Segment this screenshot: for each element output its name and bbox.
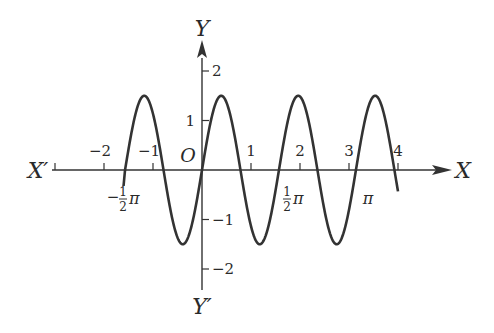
x-tick-label: −1 bbox=[138, 142, 160, 160]
pi-symbol: π bbox=[292, 189, 304, 208]
fraction-denominator: 2 bbox=[283, 200, 291, 214]
x-tick-label: 1 bbox=[246, 142, 256, 160]
fraction-numerator: 1 bbox=[119, 185, 127, 199]
axis-labels: −2−1123421−1−2XX′YY′O−12π12ππ bbox=[26, 16, 473, 319]
pi-annotation: 12π bbox=[283, 185, 304, 214]
axes bbox=[52, 40, 452, 290]
fraction-numerator: 1 bbox=[283, 185, 291, 199]
x-axis-neg-label: X′ bbox=[26, 158, 49, 183]
minus-sign: − bbox=[107, 188, 120, 206]
pi-symbol: π bbox=[362, 189, 374, 208]
pi-symbol: π bbox=[128, 189, 140, 208]
y-tick-label: −2 bbox=[212, 260, 234, 278]
y-tick-label: 1 bbox=[185, 112, 195, 130]
fraction-denominator: 2 bbox=[119, 200, 127, 214]
x-tick-label: 3 bbox=[344, 142, 354, 160]
origin-label: O bbox=[180, 144, 196, 166]
pi-annotation: π bbox=[362, 189, 374, 208]
x-tick-label: −2 bbox=[89, 142, 111, 160]
x-tick-label: 4 bbox=[393, 142, 403, 160]
pi-annotation: −12π bbox=[107, 185, 140, 214]
y-axis-neg-label: Y′ bbox=[192, 294, 212, 319]
y-axis-label: Y bbox=[195, 16, 212, 41]
chart-canvas: −2−1123421−1−2XX′YY′O−12π12ππ bbox=[0, 0, 494, 333]
y-tick-label: 2 bbox=[212, 62, 222, 80]
x-tick-label: 2 bbox=[295, 142, 305, 160]
y-tick-label: −1 bbox=[212, 211, 234, 229]
curve-start-tail bbox=[124, 170, 126, 186]
x-axis-label: X bbox=[453, 158, 472, 183]
y-axis-arrow-icon bbox=[197, 40, 207, 58]
